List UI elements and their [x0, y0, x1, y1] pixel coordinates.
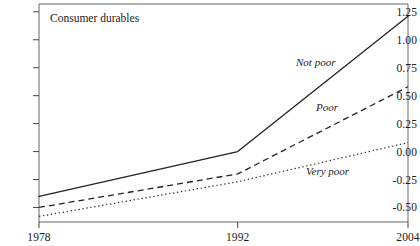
plot-frame — [39, 4, 408, 222]
series-not-poor — [39, 16, 408, 196]
series-poor — [39, 87, 408, 208]
y-axis-ticks — [33, 12, 39, 208]
y-tick-label: 1.00 — [387, 34, 417, 46]
y-tick-label: 0.00 — [387, 146, 417, 158]
series-label-very-poor: Very poor — [306, 165, 349, 177]
y-tick-label: 0.50 — [387, 90, 417, 102]
y-tick-label: -0.50 — [387, 201, 417, 213]
series-label-not-poor: Not poor — [296, 56, 335, 68]
series-very-poor — [39, 143, 408, 217]
x-axis-ticks — [39, 222, 408, 228]
y-tick-label: 1.25 — [387, 6, 417, 18]
x-tick-label: 1978 — [27, 231, 50, 243]
y-tick-label: 0.75 — [387, 62, 417, 74]
series-label-poor: Poor — [316, 101, 338, 113]
x-tick-label: 1992 — [226, 231, 249, 243]
panel-title: Consumer durables — [50, 12, 139, 24]
y-tick-label: -0.25 — [387, 174, 417, 186]
y-tick-label: 0.25 — [387, 118, 417, 130]
x-tick-label: 2004 — [396, 231, 419, 243]
